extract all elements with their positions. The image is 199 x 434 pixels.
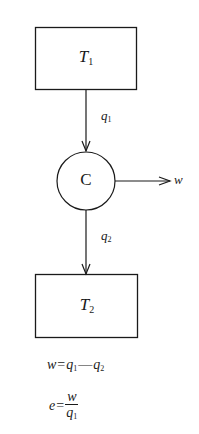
fraction: wq1: [65, 390, 78, 424]
subscript: 1: [108, 115, 112, 124]
hot-reservoir-label: T1: [36, 47, 136, 67]
term-b-subscript: 2: [100, 364, 104, 373]
q1-label: q1: [101, 108, 112, 124]
numerator: w: [65, 390, 78, 405]
subscript: 2: [89, 304, 94, 315]
work-label: w: [174, 172, 183, 188]
equals-sign: =: [57, 357, 65, 372]
term-a-subscript: 1: [73, 364, 77, 373]
cold-reservoir-label: T2: [36, 295, 138, 315]
denominator-subscript: 1: [73, 412, 77, 421]
q2-label: q2: [101, 228, 112, 244]
subscript: 2: [108, 235, 112, 244]
symbol: T: [79, 47, 88, 66]
efficiency-equation: e=wq1: [49, 390, 78, 424]
lhs: e: [49, 398, 55, 413]
minus-sign: —: [78, 357, 92, 372]
work-equation: w=q1—q2: [47, 357, 104, 373]
lhs: w: [47, 357, 56, 372]
denominator: q1: [65, 405, 78, 424]
symbol: T: [80, 295, 89, 314]
subscript: 1: [88, 56, 93, 67]
engine-label: C: [57, 170, 115, 190]
equals-sign: =: [56, 398, 64, 413]
